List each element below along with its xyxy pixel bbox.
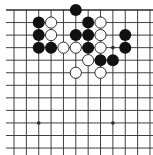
- go-board[interactable]: [0, 0, 153, 155]
- black-stone[interactable]: [119, 29, 131, 41]
- black-stone[interactable]: [82, 42, 94, 54]
- white-stone[interactable]: [95, 29, 106, 40]
- star-point-icon: [111, 46, 115, 50]
- black-stone[interactable]: [70, 4, 82, 16]
- white-stone[interactable]: [83, 55, 94, 66]
- black-stone[interactable]: [33, 42, 45, 54]
- white-stone[interactable]: [95, 17, 106, 28]
- black-stone[interactable]: [33, 29, 45, 41]
- black-stone[interactable]: [107, 54, 119, 66]
- black-stone[interactable]: [119, 42, 131, 54]
- black-stone[interactable]: [95, 54, 107, 66]
- black-stone[interactable]: [70, 29, 82, 41]
- white-stone[interactable]: [45, 29, 56, 40]
- white-stone[interactable]: [45, 17, 56, 28]
- white-stone[interactable]: [70, 67, 81, 78]
- white-stone[interactable]: [70, 42, 81, 53]
- white-stone[interactable]: [58, 42, 69, 53]
- stones-layer: [33, 4, 132, 78]
- black-stone[interactable]: [33, 17, 45, 29]
- white-stone[interactable]: [95, 42, 106, 53]
- star-point-icon: [37, 121, 41, 125]
- black-stone[interactable]: [45, 42, 57, 54]
- white-stone[interactable]: [95, 67, 106, 78]
- black-stone[interactable]: [82, 17, 94, 29]
- star-point-icon: [111, 121, 115, 125]
- black-stone[interactable]: [82, 29, 94, 41]
